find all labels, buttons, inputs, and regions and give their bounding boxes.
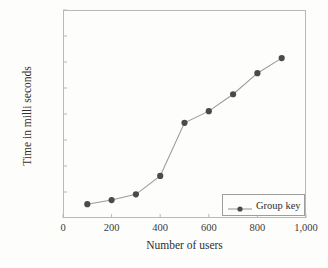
series-line-group-key [87, 58, 281, 204]
x-tick-label: 800 [250, 222, 266, 233]
series-markers-group-key [84, 55, 285, 207]
x-tick-label: 1,000 [294, 222, 318, 233]
data-point [206, 108, 212, 114]
x-tick-label: 200 [104, 222, 120, 233]
x-tick-label: 600 [201, 222, 217, 233]
chart-screenshot: 0.40.350.30.250.20.150.15· 10−2 02004006… [0, 0, 328, 268]
x-tick-label: 0 [60, 222, 65, 233]
x-tick-label: 400 [152, 222, 168, 233]
legend-box: Group key [222, 194, 305, 216]
y-axis-tick-marks [63, 10, 67, 192]
data-point [84, 201, 90, 207]
legend-label: Group key [256, 200, 301, 211]
y-axis-title: Time in milli seconds [21, 36, 33, 196]
data-point [254, 70, 260, 76]
data-point [230, 91, 236, 97]
legend-line-marker-sample [228, 200, 252, 210]
x-axis-title: Number of users [63, 239, 306, 251]
data-point [133, 191, 139, 197]
data-point [157, 173, 163, 179]
data-point [109, 197, 115, 203]
data-point [181, 120, 187, 126]
data-point [279, 55, 285, 61]
